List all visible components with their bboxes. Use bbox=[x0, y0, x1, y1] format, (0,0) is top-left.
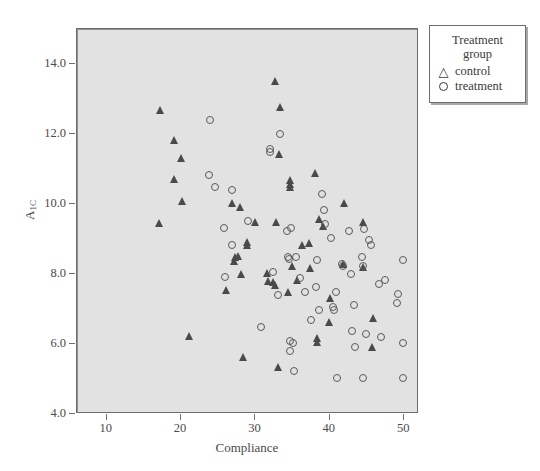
data-point-treatment bbox=[285, 255, 293, 263]
data-point-treatment bbox=[296, 274, 304, 282]
y-tick-label: 8.0 bbox=[50, 266, 66, 281]
data-point-control bbox=[313, 338, 321, 346]
y-tick-mark bbox=[69, 343, 75, 344]
data-point-control bbox=[326, 294, 334, 302]
legend-entry-treatment: treatment bbox=[438, 79, 517, 94]
data-point-control bbox=[231, 253, 239, 261]
data-point-control bbox=[237, 270, 245, 278]
data-point-control bbox=[271, 281, 279, 289]
data-point-treatment bbox=[292, 253, 300, 261]
y-tick-mark bbox=[69, 273, 75, 274]
data-point-control bbox=[271, 77, 279, 85]
x-axis-title: Compliance bbox=[0, 440, 494, 456]
data-point-treatment bbox=[339, 262, 347, 270]
data-point-control bbox=[313, 334, 321, 342]
data-point-treatment bbox=[307, 316, 315, 324]
data-point-treatment bbox=[394, 290, 402, 298]
data-point-control bbox=[275, 150, 283, 158]
triangle-outline-icon: △ bbox=[438, 65, 449, 78]
legend-title-line2: group bbox=[438, 47, 517, 61]
data-point-control bbox=[272, 218, 280, 226]
data-point-control bbox=[288, 262, 296, 270]
data-point-treatment bbox=[358, 253, 366, 261]
y-tick-mark bbox=[69, 413, 75, 414]
x-tick-mark bbox=[403, 414, 404, 420]
data-point-treatment bbox=[329, 303, 337, 311]
data-point-treatment bbox=[286, 337, 294, 345]
legend-entry-label: treatment bbox=[455, 79, 502, 94]
data-point-control bbox=[286, 183, 294, 191]
legend-entry-control: △control bbox=[438, 64, 517, 79]
data-point-treatment bbox=[399, 256, 407, 264]
data-point-treatment bbox=[333, 374, 341, 382]
data-point-control bbox=[276, 103, 284, 111]
data-point-treatment bbox=[274, 291, 282, 299]
circle-outline-icon bbox=[438, 82, 449, 91]
scatter-plot-figure: A1C 4.06.08.010.012.014.0 1020304050 Com… bbox=[0, 0, 540, 471]
data-point-control bbox=[298, 241, 306, 249]
data-point-control bbox=[243, 238, 251, 246]
data-point-control bbox=[369, 314, 377, 322]
data-point-treatment bbox=[350, 301, 358, 309]
x-tick-label: 50 bbox=[397, 421, 410, 436]
data-point-treatment bbox=[257, 323, 265, 331]
plot-area bbox=[76, 28, 418, 413]
data-point-control bbox=[286, 176, 294, 184]
data-point-control bbox=[311, 169, 319, 177]
data-points-layer bbox=[77, 29, 417, 412]
data-point-treatment bbox=[244, 217, 252, 225]
x-tick-label: 40 bbox=[323, 421, 336, 436]
data-point-treatment bbox=[365, 236, 373, 244]
data-point-treatment bbox=[211, 183, 219, 191]
data-point-treatment bbox=[399, 374, 407, 382]
data-point-treatment bbox=[228, 186, 236, 194]
data-point-treatment bbox=[286, 347, 294, 355]
data-point-treatment bbox=[221, 273, 229, 281]
data-point-treatment bbox=[381, 276, 389, 284]
legend-entries: △controltreatment bbox=[438, 64, 517, 94]
y-axis-title: A1C bbox=[22, 200, 38, 220]
y-axis-title-base: A bbox=[22, 211, 37, 220]
data-point-treatment bbox=[312, 283, 320, 291]
legend-title-line1: Treatment bbox=[438, 33, 517, 47]
data-point-control bbox=[243, 241, 251, 249]
data-point-control bbox=[178, 197, 186, 205]
y-tick-label: 12.0 bbox=[44, 126, 66, 141]
data-point-treatment bbox=[351, 343, 359, 351]
data-point-control bbox=[170, 136, 178, 144]
data-point-treatment bbox=[393, 299, 401, 307]
data-point-control bbox=[269, 278, 277, 286]
data-point-control bbox=[251, 218, 259, 226]
data-point-treatment bbox=[290, 367, 298, 375]
data-point-control bbox=[368, 343, 376, 351]
data-point-treatment bbox=[327, 234, 335, 242]
x-tick-mark bbox=[254, 414, 255, 420]
data-point-treatment bbox=[283, 227, 291, 235]
legend-title: Treatment group bbox=[438, 33, 517, 61]
data-point-treatment bbox=[348, 327, 356, 335]
data-point-treatment bbox=[362, 330, 370, 338]
y-tick-label: 10.0 bbox=[44, 196, 66, 211]
data-point-control bbox=[293, 276, 301, 284]
data-point-control bbox=[315, 215, 323, 223]
data-point-treatment bbox=[284, 253, 292, 261]
data-point-treatment bbox=[321, 220, 329, 228]
data-point-control bbox=[156, 106, 164, 114]
data-point-control bbox=[359, 218, 367, 226]
x-tick-label: 10 bbox=[99, 421, 112, 436]
data-point-treatment bbox=[276, 130, 284, 138]
data-point-treatment bbox=[205, 171, 213, 179]
data-point-control bbox=[170, 175, 178, 183]
data-point-treatment bbox=[367, 241, 375, 249]
y-tick-label: 14.0 bbox=[44, 56, 66, 71]
data-point-treatment bbox=[338, 260, 346, 268]
data-point-treatment bbox=[269, 268, 277, 276]
data-point-treatment bbox=[359, 262, 367, 270]
data-point-control bbox=[236, 203, 244, 211]
data-point-treatment bbox=[266, 148, 274, 156]
data-point-control bbox=[234, 252, 242, 260]
data-point-treatment bbox=[287, 224, 295, 232]
data-point-control bbox=[325, 318, 333, 326]
y-tick-label: 4.0 bbox=[50, 406, 66, 421]
data-point-treatment bbox=[206, 116, 214, 124]
